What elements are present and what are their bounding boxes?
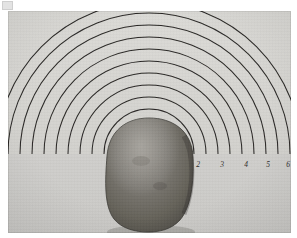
potato-highlight xyxy=(106,118,193,232)
object-layer xyxy=(8,11,291,233)
screenshot-root: 2 3 4 5 6 xyxy=(0,0,297,238)
scan-corner-artifact xyxy=(2,1,13,10)
potato xyxy=(106,118,195,233)
potato-blemish-1 xyxy=(132,156,150,166)
potato-blemish-2 xyxy=(153,182,167,190)
photograph: 2 3 4 5 6 xyxy=(8,11,291,233)
